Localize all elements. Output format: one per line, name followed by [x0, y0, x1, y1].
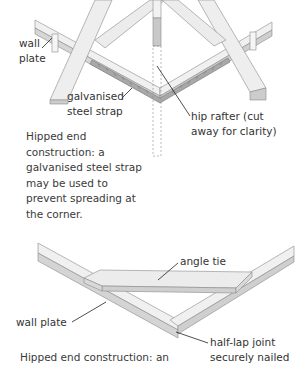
figure-1-caption: Hipped end construction: a galvanised st… [26, 129, 142, 222]
figure-2-drawing [38, 243, 294, 338]
label-wall-plate-2: wall plate [16, 315, 67, 329]
leader-wall-plate-2 [72, 302, 106, 322]
caption-line: may be used to [26, 176, 142, 192]
label-wall-plate-line1: wall [19, 36, 40, 50]
caption-line: the corner. [26, 207, 142, 223]
label-strap-line2: steel strap [67, 104, 123, 118]
label-wall-plate-line2: plate [19, 51, 46, 65]
caption-line: Hipped end [26, 129, 142, 145]
label-hip-rafter-line2: away for clarity) [191, 124, 277, 138]
caption-line: Hipped end construction: an [20, 350, 169, 366]
label-angle-tie: angle tie [180, 254, 226, 268]
angle-tie [84, 270, 252, 288]
caption-line: construction: a [26, 145, 142, 161]
label-joint-line1: half-lap joint [210, 335, 275, 349]
caption-line: galvanised steel strap [26, 160, 142, 176]
figure-2-caption: Hipped end construction: an [20, 350, 169, 366]
label-hip-rafter-line1: hip rafter (cut [191, 109, 264, 123]
caption-line: prevent spreading at [26, 191, 142, 207]
label-joint-line2: securely nailed [210, 350, 289, 364]
leader-half-lap-joint [176, 332, 208, 343]
label-strap-line1: galvanised [67, 89, 124, 103]
